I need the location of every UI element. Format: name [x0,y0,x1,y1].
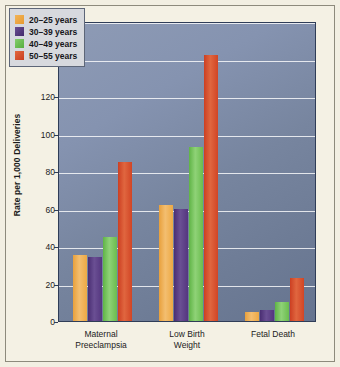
y-tick-label: 100 [31,130,55,140]
legend-item-label: 20–25 years [29,15,77,25]
bar [204,55,218,321]
x-axis-label-line: Preeclampsia [56,340,146,351]
y-tick-mark [54,322,58,323]
y-tick-label: 60 [31,205,55,215]
bar [73,255,87,321]
legend-swatch-icon [15,51,24,60]
bar [260,310,274,321]
x-axis-label: Fetal Death [228,329,318,340]
bar [118,162,132,321]
x-axis-label-line: Low Birth [142,329,232,340]
x-axis-label: MaternalPreeclampsia [56,329,146,351]
legend-item[interactable]: 20–25 years [15,14,77,25]
bar [275,302,289,321]
x-axis-label: Low BirthWeight [142,329,232,351]
legend-item[interactable]: 30–39 years [15,26,77,37]
legend-swatch-icon [15,15,24,24]
bar [159,205,173,321]
y-tick-label: 80 [31,167,55,177]
legend: 20–25 years30–39 years40–49 years50–55 y… [9,8,85,67]
bar [290,278,304,321]
bar-chart: Rate per 1,000 Deliveries 02040608010012… [0,0,340,367]
figure-page: Rate per 1,000 Deliveries 02040608010012… [0,0,340,367]
bar-group [231,23,317,321]
x-axis-label-line: Maternal [56,329,146,340]
legend-item-label: 40–49 years [29,39,77,49]
legend-item-label: 50–55 years [29,51,77,61]
x-axis-label-line: Weight [142,340,232,351]
legend-item[interactable]: 50–55 years [15,50,77,61]
plot-area [58,22,316,322]
bar [103,237,117,321]
bar-group [59,23,145,321]
bar [245,312,259,321]
bar-group [145,23,231,321]
y-tick-label: 120 [31,92,55,102]
y-axis-title: Rate per 1,000 Deliveries [12,85,22,245]
legend-swatch-icon [15,27,24,36]
x-axis-label-line: Fetal Death [228,329,318,340]
legend-swatch-icon [15,39,24,48]
bar [88,257,102,321]
y-tick-label: 20 [31,280,55,290]
legend-item[interactable]: 40–49 years [15,38,77,49]
y-tick-label: 40 [31,242,55,252]
bar [189,147,203,321]
legend-item-label: 30–39 years [29,27,77,37]
y-tick-label: 0 [31,317,55,327]
bar [174,209,188,322]
